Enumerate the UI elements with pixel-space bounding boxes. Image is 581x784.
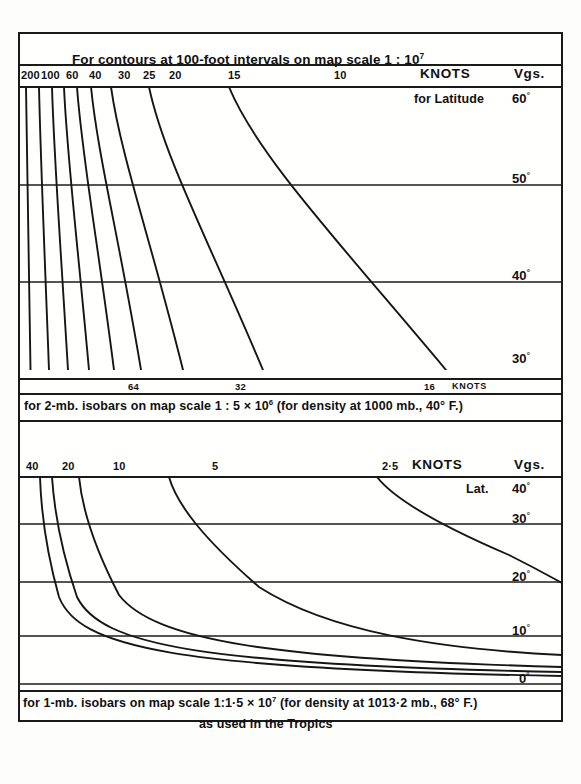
lower-curve-2p5 <box>377 477 562 583</box>
lower-scale-2p5: 2·5 <box>382 461 398 472</box>
upper-lat-50: 50° <box>512 172 530 185</box>
lower-chart-caption-line1: for 1-mb. isobars on map scale 1:1·5 × 1… <box>23 697 477 710</box>
upper-scale-100: 100 <box>41 70 60 81</box>
upper-bottom-axis <box>19 378 562 380</box>
upper-plot-svg <box>19 87 562 370</box>
lower-scale-5: 5 <box>212 461 218 472</box>
lower-plot-svg <box>19 477 562 689</box>
upper-curve-60 <box>52 87 68 370</box>
upper-scale-30: 30 <box>118 70 130 81</box>
upper-plot-area <box>19 87 562 370</box>
upper-title-rule <box>19 64 562 66</box>
upper-curve-40 <box>64 87 89 370</box>
lower-lat-0: 0° <box>519 672 530 685</box>
lower-curve-40 <box>40 477 562 676</box>
upper-title-exponent: 7 <box>420 51 425 61</box>
upper-bottom-16: 16 <box>424 382 435 392</box>
lower-curve-5 <box>169 477 562 655</box>
lower-chart-caption-line2: as used in the Tropics <box>199 718 333 731</box>
upper-scale-15: 15 <box>228 70 240 81</box>
charts-divider <box>19 420 562 422</box>
upper-vgs-label: Vgs. <box>514 67 545 81</box>
lower-vgs-label: Vgs. <box>514 458 545 472</box>
lower-curve-10 <box>79 477 562 667</box>
upper-knots-label: KNOTS <box>420 67 470 81</box>
upper-caption-top-rule <box>19 393 562 395</box>
lower-plot-area <box>19 477 562 689</box>
upper-lat-40: 40° <box>512 269 530 282</box>
upper-curve-100 <box>39 87 49 370</box>
upper-scale-25: 25 <box>143 70 155 81</box>
upper-curve-30 <box>77 87 114 370</box>
upper-curve-20 <box>111 87 183 370</box>
upper-curve-200 <box>26 87 31 370</box>
upper-scale-10: 10 <box>334 70 346 81</box>
lower-knots-label: KNOTS <box>412 458 462 472</box>
upper-curve-25 <box>91 87 141 370</box>
upper-scale-200: 200 <box>21 70 40 81</box>
lower-scale-40: 40 <box>26 461 38 472</box>
lower-scale-10: 10 <box>113 461 125 472</box>
upper-chart-caption: for 2-mb. isobars on map scale 1 : 5 × 1… <box>24 400 463 413</box>
lower-lat-20: 20° <box>512 570 530 583</box>
upper-curve-15 <box>149 87 263 370</box>
upper-scale-20: 20 <box>169 70 181 81</box>
upper-lat-30: 30° <box>512 352 530 365</box>
upper-curve-10 <box>229 87 446 370</box>
upper-scale-60: 60 <box>66 70 78 81</box>
lower-scale-20: 20 <box>62 461 74 472</box>
upper-bottom-32: 32 <box>235 382 246 392</box>
figure-page: For contours at 100-foot intervals on ma… <box>0 0 581 784</box>
lower-caption-top-rule <box>19 690 562 692</box>
lower-lat-30: 30° <box>512 512 530 525</box>
upper-scale-40: 40 <box>89 70 101 81</box>
upper-bottom-64: 64 <box>128 382 139 392</box>
upper-bottom-knots-label: KNOTS <box>452 382 487 391</box>
lower-lat-10: 10° <box>512 624 530 637</box>
